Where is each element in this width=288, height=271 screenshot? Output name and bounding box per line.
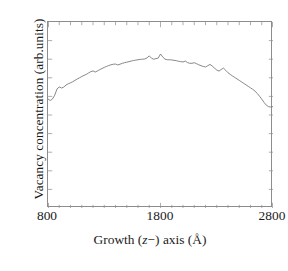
tick-marks-group [48,22,273,208]
chart-plot-area [48,22,273,208]
x-axis-title: Growth (z−) axis (Å) [30,232,270,248]
x-tick-label-1: 1800 [130,208,190,224]
x-axis-title-before: Growth ( [94,232,143,247]
x-tick-label-2: 2800 [242,208,288,224]
figure-container: Vacancy concentration (arb.units) 800 18… [0,0,288,271]
x-axis-title-after: −) axis (Å) [148,232,207,247]
x-tick-label-0: 800 [17,208,77,224]
data-series-line [48,54,273,107]
plot-frame [47,21,272,207]
